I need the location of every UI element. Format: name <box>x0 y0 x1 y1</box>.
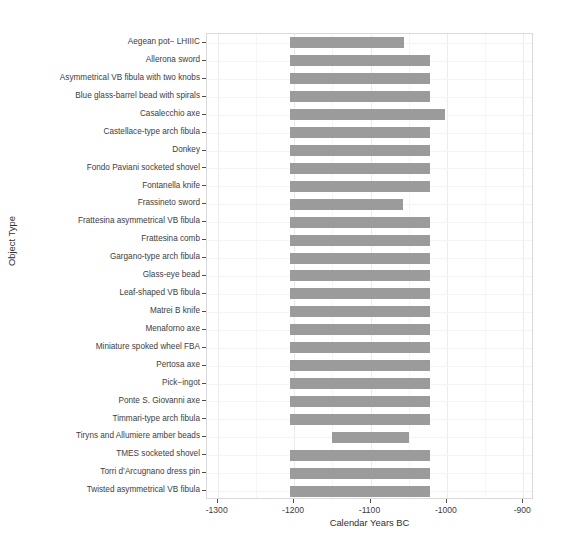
y-axis-tick-label: Pertosa axe <box>156 360 200 369</box>
x-axis-tick-label: -1200 <box>268 505 318 515</box>
bar <box>290 306 430 317</box>
bar <box>290 109 445 120</box>
y-axis-tick-label: Leaf-shaped VB fibula <box>119 288 200 297</box>
plot-panel <box>206 33 533 499</box>
y-axis-tick-label: Menaforno axe <box>145 324 200 333</box>
y-axis-tick-label: Torri d’Arcugnano dress pin <box>100 467 200 476</box>
bar <box>290 199 403 210</box>
x-axis-tick-label: -1300 <box>192 505 242 515</box>
bar <box>290 37 404 48</box>
x-axis-tick <box>446 499 447 503</box>
gridline-minor <box>332 34 333 498</box>
y-axis-tick-label: Frassineto sword <box>138 198 200 207</box>
bar <box>290 270 430 281</box>
y-axis-tick-label: Timmari-type arch fibula <box>112 414 200 423</box>
gridline-minor <box>409 34 410 498</box>
gridline-major <box>218 34 219 498</box>
bar <box>290 468 430 479</box>
gridline-major <box>371 34 372 498</box>
x-axis-tick <box>370 499 371 503</box>
bar <box>290 396 430 407</box>
bar <box>290 324 430 335</box>
y-axis-tick-label: Gargano-type arch fibula <box>110 252 200 261</box>
y-axis-tick-label: Castellace-type arch fibula <box>104 127 200 136</box>
gridline-major <box>447 34 448 498</box>
y-axis-tick-label: Twisted asymmetrical VB fibula <box>87 485 200 494</box>
y-axis-tick-label: Matrei B knife <box>150 306 200 315</box>
y-axis-tick-label: Frattesina asymmetrical VB fibula <box>78 216 200 225</box>
y-axis-tick-label: Casalecchio axe <box>140 109 200 118</box>
bar <box>290 414 430 425</box>
bar <box>332 432 408 443</box>
gridline-major <box>523 34 524 498</box>
bar <box>290 486 430 497</box>
x-axis-tick-label: -900 <box>497 505 547 515</box>
y-axis-tick-label: Ponte S. Giovanni axe <box>119 396 200 405</box>
bar <box>290 127 430 138</box>
bar <box>290 235 430 246</box>
y-axis-tick-label: Blue glass-barrel bead with spirals <box>75 91 200 100</box>
y-axis-tick-label: Asymmetrical VB fibula with two knobs <box>60 73 200 82</box>
y-axis-tick-label: Glass-eye bead <box>143 270 200 279</box>
y-axis-tick-label: Fontanella knife <box>142 181 200 190</box>
bar <box>290 55 430 66</box>
y-axis-title: Object Type <box>6 216 17 266</box>
bar <box>290 342 430 353</box>
bar <box>290 253 430 264</box>
y-axis-tick-label: Fondo Paviani socketed shovel <box>87 163 200 172</box>
y-axis-tick-label: Frattesina comb <box>141 234 200 243</box>
y-axis-tick-label: Tiryns and Allumiere amber beads <box>76 431 200 440</box>
y-axis-tick-label: Pick−ingot <box>162 378 200 387</box>
y-axis-tick-label: Donkey <box>172 145 200 154</box>
gridline-minor <box>485 34 486 498</box>
x-axis-title: Calendar Years BC <box>206 517 533 528</box>
bar <box>290 217 430 228</box>
x-axis-tick <box>217 499 218 503</box>
y-axis-tick-label: TMES socketed shovel <box>116 449 200 458</box>
bar <box>290 181 430 192</box>
bar <box>290 378 430 389</box>
bar <box>290 288 430 299</box>
bar <box>290 145 430 156</box>
bar <box>290 163 430 174</box>
x-axis-tick-label: -1100 <box>345 505 395 515</box>
y-axis-tick-label: Aegean pot− LHIIIC <box>128 37 200 46</box>
bar <box>290 73 430 84</box>
chart-figure: Object Type Aegean pot− LHIIICAllerona s… <box>0 0 561 533</box>
gridline-major <box>294 34 295 498</box>
y-axis-tick-label: Miniature spoked wheel FBA <box>96 342 200 351</box>
x-axis-tick <box>293 499 294 503</box>
bar <box>290 360 430 371</box>
y-axis-tick-label: Allerona sword <box>146 55 200 64</box>
x-axis-tick-label: -1000 <box>421 505 471 515</box>
gridline-minor <box>256 34 257 498</box>
bar <box>290 91 430 102</box>
bar <box>290 450 430 461</box>
x-axis-tick <box>522 499 523 503</box>
